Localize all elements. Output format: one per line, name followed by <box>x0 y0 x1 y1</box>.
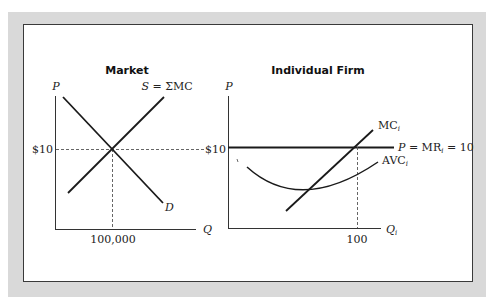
demand-label: D <box>164 201 174 214</box>
charts-canvas: Market P Q S = ΣMC D $10 100,000 Individ… <box>0 0 486 297</box>
firm-chart: Individual Firm P Qi $10 P = MRi = 10 10… <box>205 64 474 246</box>
firm-qty-tick: 100 <box>347 233 368 246</box>
firm-title: Individual Firm <box>271 64 364 77</box>
price-mr-label: P = MRi = 10 <box>397 141 474 155</box>
market-price-tick: $10 <box>32 143 53 156</box>
market-q-axis-label: Q <box>203 223 212 236</box>
stray-mark <box>237 159 238 162</box>
firm-price-tick: $10 <box>205 143 226 156</box>
market-qty-tick: 100,000 <box>90 233 136 246</box>
supply-label: S = ΣMC <box>141 80 192 93</box>
supply-curve <box>68 97 164 193</box>
mc-curve <box>286 130 373 211</box>
mc-label: MCi <box>378 119 400 133</box>
market-p-axis-label: P <box>51 80 60 93</box>
market-title: Market <box>105 64 149 77</box>
firm-p-axis-label: P <box>224 80 233 93</box>
firm-q-axis-label: Qi <box>386 223 397 237</box>
avc-label: AVCi <box>381 154 408 168</box>
market-chart: Market P Q S = ΣMC D $10 100,000 <box>32 64 212 246</box>
